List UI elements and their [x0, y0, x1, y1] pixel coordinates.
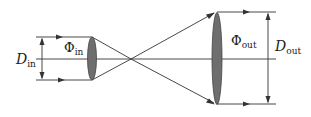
- output-ray-bottom-arrow-icon: [243, 102, 250, 107]
- d-out-arrow-up-icon: [266, 13, 271, 21]
- phi-out-label: Φout: [231, 33, 257, 50]
- ray-converge-top: [92, 37, 131, 59]
- output-beam: [217, 10, 276, 107]
- beam-expander-diagram: Din Φin Φout Dout: [0, 0, 311, 117]
- ray-diverge-top-arrow-icon: [206, 13, 215, 20]
- d-in-arrow-up-icon: [40, 38, 45, 46]
- ray-diverge-bottom: [131, 59, 214, 103]
- output-ray-top-arrow-icon: [243, 10, 250, 15]
- d-in-label: Din: [15, 51, 36, 69]
- input-ray-bottom-arrow-icon: [58, 78, 65, 83]
- d-in-dimension: [40, 38, 45, 80]
- focusing-rays: [92, 13, 215, 105]
- d-out-label: Dout: [274, 38, 301, 56]
- ray-diverge-top: [131, 13, 214, 59]
- d-out-dimension: [266, 13, 271, 104]
- input-ray-top-arrow-icon: [56, 35, 63, 40]
- output-lens: [212, 13, 222, 105]
- d-in-arrow-down-icon: [40, 72, 45, 80]
- ray-converge-bottom: [92, 59, 131, 80]
- input-lens: [88, 37, 97, 80]
- d-out-arrow-down-icon: [266, 96, 271, 104]
- phi-in-label: Φin: [64, 40, 84, 57]
